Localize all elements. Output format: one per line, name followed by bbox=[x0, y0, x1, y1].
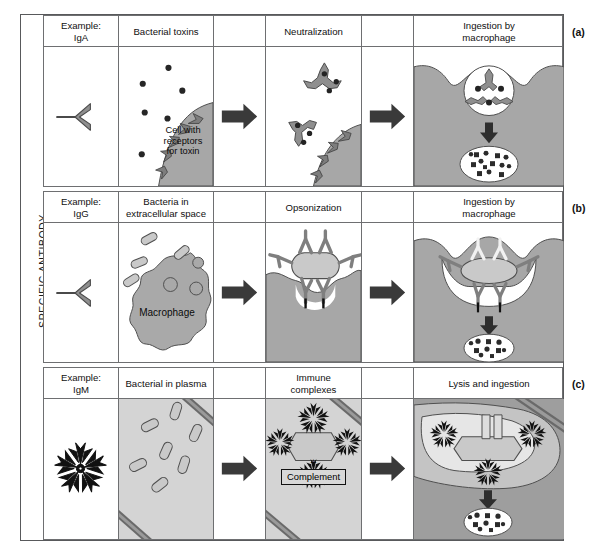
row-c-arrow1-header bbox=[214, 368, 266, 399]
row-b-stage2-header: Opsonization bbox=[266, 192, 362, 223]
row-a-tag: (a) bbox=[572, 26, 585, 38]
row-a-neutralization-cell bbox=[266, 47, 362, 186]
row-c-example-label: Example: bbox=[61, 372, 101, 383]
figure-outer-frame: SPECIFIC ANTIBODY Example: IgA Bacterial… bbox=[20, 14, 564, 541]
row-b: Example: IgG Bacteria in extracellular s… bbox=[43, 191, 563, 363]
row-c-body: + Complement bbox=[44, 399, 562, 539]
row-b-isotype-name: IgG bbox=[61, 208, 101, 219]
row-a-body: Cell with receptors for toxin bbox=[44, 47, 562, 186]
row-b-stage1-header: Bacteria in extracellular space bbox=[119, 192, 214, 223]
process-arrow-icon bbox=[214, 399, 265, 539]
row-b-arrow2-cell bbox=[362, 223, 414, 362]
row-a-stage3-line2: macrophage bbox=[462, 32, 515, 43]
igm-pentamer-icon bbox=[44, 399, 118, 539]
row-b-stage3-header: Ingestion by macrophage bbox=[414, 192, 564, 223]
row-c-immune-complex-cell: + Complement bbox=[266, 399, 362, 539]
macrophage-caption: Macrophage bbox=[132, 308, 202, 319]
row-c-isotype-name: IgM bbox=[61, 384, 101, 395]
row-a: Example: IgA Bacterial toxins Neutraliza… bbox=[43, 15, 563, 187]
row-c-lysis-cell bbox=[414, 399, 564, 539]
row-c-header: Example: IgM Bacterial in plasma Immune … bbox=[44, 368, 562, 399]
row-b-bacteria-cell bbox=[119, 223, 214, 362]
row-c-stage1-header: Bacterial in plasma bbox=[119, 368, 214, 399]
row-a-antibody-cell bbox=[44, 47, 119, 186]
row-a-header: Example: IgA Bacterial toxins Neutraliza… bbox=[44, 16, 562, 47]
bacteria-in-plasma-illustration bbox=[119, 399, 213, 539]
plus-sign: + bbox=[266, 458, 361, 469]
row-b-body: Macrophage bbox=[44, 223, 562, 362]
macrophage-ingestion-illustration bbox=[414, 223, 564, 362]
row-c-antibody-cell bbox=[44, 399, 119, 539]
macrophage-and-bacteria-illustration bbox=[119, 223, 213, 362]
row-a-example-label: Example: bbox=[61, 20, 101, 31]
iga-monomer-icon bbox=[44, 47, 118, 186]
row-a-arrow2-cell bbox=[362, 47, 414, 186]
row-c-arrow2-cell bbox=[362, 399, 414, 539]
row-b-example-label: Example: bbox=[61, 196, 101, 207]
receptor-cell-caption: Cell with receptors for toxin bbox=[157, 125, 209, 157]
row-a-stage3-header: Ingestion by macrophage bbox=[414, 16, 564, 47]
row-a-isotype-header: Example: IgA bbox=[44, 16, 119, 47]
row-c-tag: (c) bbox=[572, 378, 585, 390]
lysis-and-ingestion-illustration bbox=[414, 399, 564, 539]
row-a-arrow1-cell bbox=[214, 47, 266, 186]
row-b-header: Example: IgG Bacteria in extracellular s… bbox=[44, 192, 562, 223]
process-arrow-icon bbox=[362, 399, 413, 539]
row-c-isotype-header: Example: IgM bbox=[44, 368, 119, 399]
row-b-arrow1-header bbox=[214, 192, 266, 223]
row-a-stage3-line1: Ingestion by bbox=[462, 20, 515, 31]
row-c: Example: IgM Bacterial in plasma Immune … bbox=[43, 367, 563, 540]
process-arrow-icon bbox=[362, 223, 413, 362]
process-arrow-icon bbox=[214, 223, 265, 362]
row-b-arrow2-header bbox=[362, 192, 414, 223]
row-c-stage3-header: Lysis and ingestion bbox=[414, 368, 564, 399]
row-c-arrow1-cell bbox=[214, 399, 266, 539]
neutralization-illustration bbox=[266, 47, 361, 186]
row-b-antibody-cell bbox=[44, 223, 119, 362]
row-a-isotype-name: IgA bbox=[61, 32, 101, 43]
antibody-effector-functions-figure: SPECIFIC ANTIBODY Example: IgA Bacterial… bbox=[0, 0, 597, 557]
row-b-tag: (b) bbox=[572, 202, 585, 214]
row-a-stage1-header: Bacterial toxins bbox=[119, 16, 214, 47]
row-a-arrow1-header bbox=[214, 16, 266, 47]
row-b-arrow1-cell bbox=[214, 223, 266, 362]
row-a-arrow2-header bbox=[362, 16, 414, 47]
opsonization-illustration bbox=[266, 223, 361, 362]
row-c-plasma-cell bbox=[119, 399, 214, 539]
row-b-isotype-header: Example: IgG bbox=[44, 192, 119, 223]
complement-label-box: Complement bbox=[281, 469, 346, 485]
row-a-toxins-cell bbox=[119, 47, 214, 186]
row-b-opsonization-cell bbox=[266, 223, 362, 362]
row-c-arrow2-header bbox=[362, 368, 414, 399]
toxins-and-receptor-cell-illustration bbox=[119, 47, 213, 186]
row-a-stage2-header: Neutralization bbox=[266, 16, 362, 47]
row-a-ingestion-cell bbox=[414, 47, 564, 186]
row-c-stage2-header: Immune complexes bbox=[266, 368, 362, 399]
macrophage-ingestion-illustration bbox=[414, 47, 564, 186]
row-b-ingestion-cell bbox=[414, 223, 564, 362]
igg-monomer-icon bbox=[44, 223, 118, 362]
process-arrow-icon bbox=[214, 47, 265, 186]
process-arrow-icon bbox=[362, 47, 413, 186]
